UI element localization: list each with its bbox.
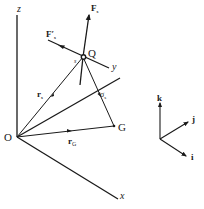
s-local-label: s [74,58,77,64]
r-s-label: rs [37,89,43,100]
f-s-prime-label: F′s [46,29,56,40]
sigma-s-label: σs [100,90,106,100]
q-y-axis [48,40,109,68]
y-axis-label: y [111,61,117,72]
g-label: G [118,121,126,133]
f-s-label: Fs [91,3,99,14]
z-axis-label: z [16,3,21,14]
origin-label: O [4,131,12,143]
y-axis-line [17,78,120,137]
x-axis [17,137,118,199]
point-q [81,55,85,59]
x-axis-label: x [119,190,125,201]
i-vector [160,139,186,156]
j-label: j [191,114,195,124]
sigma-s-vector [83,57,114,126]
f-s-prime-arrowhead [58,45,65,49]
i-label: i [191,152,194,162]
diagram-canvas: z x y O Q G s rs rG σs Fs F′s k j i [0,0,204,209]
r-s-vector [17,57,83,137]
q-label: Q [88,47,96,59]
r-g-vector [17,126,114,137]
j-vector [160,122,188,139]
k-label: k [157,93,162,103]
r-g-label: rG [68,136,77,147]
q-s-axis [80,57,83,85]
r-g-arrowhead [67,129,72,133]
